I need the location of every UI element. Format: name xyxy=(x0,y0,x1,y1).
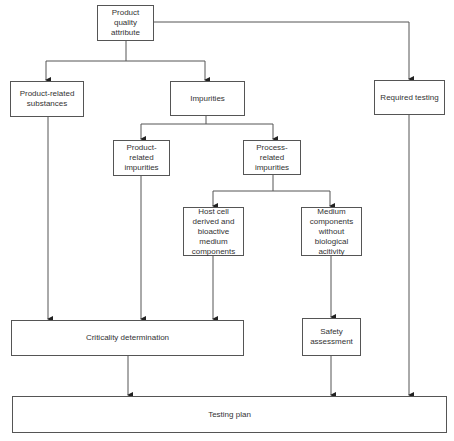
node-required-testing: Required testing xyxy=(374,80,445,115)
node-product-related-substances: Product-related substances xyxy=(10,81,84,117)
node-product-quality-attribute: Product quality attribute xyxy=(97,5,154,41)
node-medium-components: Medium components without biological aci… xyxy=(301,207,362,256)
flowchart: Product quality attribute Product-relate… xyxy=(0,0,454,441)
node-impurities: Impurities xyxy=(170,81,245,116)
node-host-cell-derived: Host cell derived and bioactive medium c… xyxy=(183,207,244,256)
node-testing-plan: Testing plan xyxy=(12,396,447,433)
node-process-related-impurities: Process-related impurities xyxy=(243,140,301,175)
node-criticality-determination: Criticality determination xyxy=(11,320,244,356)
node-safety-assessment: Safety assessment xyxy=(302,318,361,356)
node-product-related-impurities: Product-related impurities xyxy=(113,140,170,176)
